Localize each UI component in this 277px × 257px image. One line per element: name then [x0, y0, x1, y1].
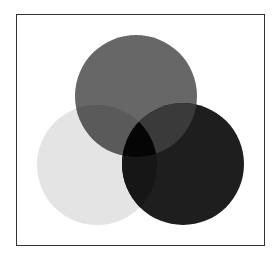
venn-diagram [0, 0, 277, 257]
